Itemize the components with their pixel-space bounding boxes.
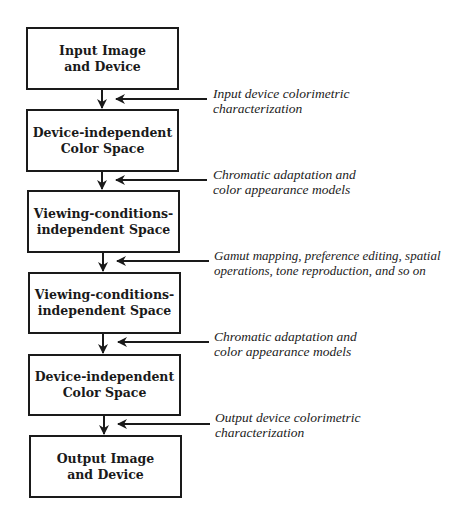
stage-label-line: independent Space bbox=[34, 222, 173, 238]
transform-line: Gamut mapping, preference editing, spati… bbox=[214, 248, 441, 263]
transform-line: operations, tone reproduction, and so on bbox=[214, 263, 441, 278]
transform-chromatic-adaptation-2: Chromatic adaptation and color appearanc… bbox=[214, 329, 357, 359]
stage-label-line: Viewing-conditions- bbox=[35, 287, 174, 303]
stage-viewing-conditions-independent-space-1: Viewing-conditions-independent Space bbox=[27, 190, 180, 253]
transform-line: color appearance models bbox=[214, 344, 357, 359]
stage-device-independent-color-space-1: Device-independentColor Space bbox=[26, 109, 179, 172]
stage-label-line: Viewing-conditions- bbox=[34, 206, 173, 222]
stage-label-line: Device-independent bbox=[35, 369, 174, 385]
transform-line: Chromatic adaptation and bbox=[214, 329, 357, 344]
transform-input-characterization: Input device colorimetric characterizati… bbox=[213, 86, 349, 116]
transform-line: characterization bbox=[213, 101, 349, 116]
stage-viewing-conditions-independent-space-2: Viewing-conditions-independent Space bbox=[28, 272, 181, 334]
stage-label-line: Color Space bbox=[33, 141, 172, 157]
transform-line: Input device colorimetric bbox=[213, 86, 349, 101]
stage-output-image-device: Output Imageand Device bbox=[29, 435, 182, 498]
stage-device-independent-color-space-2: Device-independentColor Space bbox=[28, 354, 181, 416]
stage-label-line: independent Space bbox=[35, 303, 174, 319]
stage-label-line: Device-independent bbox=[33, 125, 172, 141]
transform-line: color appearance models bbox=[213, 182, 356, 197]
transform-chromatic-adaptation-1: Chromatic adaptation and color appearanc… bbox=[213, 167, 356, 197]
stage-label-line: Input Image bbox=[59, 43, 146, 59]
transform-line: Chromatic adaptation and bbox=[213, 167, 356, 182]
transform-output-characterization: Output device colorimetric characterizat… bbox=[215, 410, 360, 440]
transform-line: Output device colorimetric bbox=[215, 410, 360, 425]
stage-label-line: Output Image bbox=[57, 451, 155, 467]
stage-label-line: and Device bbox=[57, 467, 155, 483]
stage-label-line: and Device bbox=[59, 59, 146, 75]
transform-line: characterization bbox=[215, 425, 360, 440]
stage-label-line: Color Space bbox=[35, 385, 174, 401]
transform-gamut-mapping: Gamut mapping, preference editing, spati… bbox=[214, 248, 441, 278]
stage-input-image-device: Input Imageand Device bbox=[26, 27, 179, 90]
